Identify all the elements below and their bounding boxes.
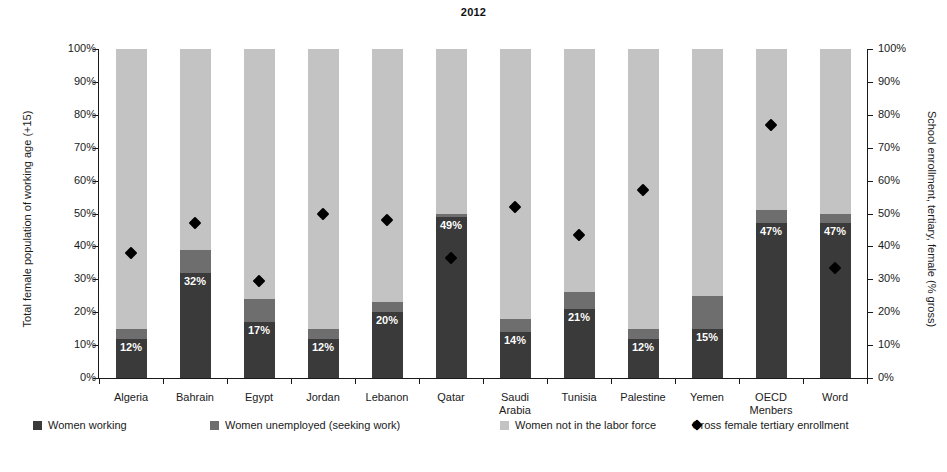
x-axis-label-line: Lebanon [355, 391, 419, 404]
bar-value-label: 12% [308, 342, 339, 353]
y-tick-label-right: 40% [878, 240, 938, 251]
bar-stack[interactable]: 49% [436, 49, 467, 378]
y-tick-label-right: 0% [878, 372, 938, 383]
bar-segment-unemployed[interactable] [436, 214, 467, 217]
bar-stack[interactable]: 14% [500, 49, 531, 378]
x-axis-label-line: Bahrain [163, 391, 227, 404]
y-tick-label-right: 20% [878, 306, 938, 317]
plot-area: 0%10%20%30%40%50%60%70%80%90%100% 0%10%2… [99, 49, 867, 378]
bar-segment-unemployed[interactable] [116, 329, 147, 339]
x-axis-label: Word [803, 391, 867, 404]
y-tick-right [868, 214, 873, 215]
x-tick [675, 379, 676, 384]
bar-value-label: 12% [116, 342, 147, 353]
x-tick [867, 379, 868, 384]
y-tick-right [868, 279, 873, 280]
y-tick-label-right: 50% [878, 208, 938, 219]
bar-stack[interactable]: 32% [180, 49, 211, 378]
bar-segment-working[interactable] [180, 273, 211, 378]
x-axis-label-line: Menbers [739, 404, 803, 417]
bar-segment-working[interactable] [436, 217, 467, 378]
y-axis-title-right: School enrollment, tertiary, female (% g… [926, 54, 938, 384]
x-tick [739, 379, 740, 384]
bar-segment-not-in-labor-force[interactable] [820, 49, 851, 214]
legend-swatch-icon [500, 421, 509, 430]
bar-value-label: 17% [244, 325, 275, 336]
legend-item[interactable]: Women not in the labor force [500, 419, 656, 431]
bar-stack[interactable]: 47% [756, 49, 787, 378]
y-tick-label-right: 60% [878, 175, 938, 186]
bar-stack[interactable]: 17% [244, 49, 275, 378]
x-axis-label-line: Algeria [99, 391, 163, 404]
y-tick-right [868, 148, 873, 149]
x-axis-label: Qatar [419, 391, 483, 404]
bar-segment-unemployed[interactable] [692, 296, 723, 329]
bar-segment-not-in-labor-force[interactable] [372, 49, 403, 302]
bar-segment-working[interactable] [820, 223, 851, 378]
y-tick-right [868, 49, 873, 50]
y-tick-label-left: 20% [36, 306, 96, 317]
bar-stack[interactable]: 47% [820, 49, 851, 378]
bar-value-label: 15% [692, 332, 723, 343]
bar-segment-not-in-labor-force[interactable] [500, 49, 531, 319]
y-axis-title-left: Total female population of working age (… [21, 54, 33, 384]
legend-label: Women working [48, 419, 127, 431]
y-tick-label-right: 90% [878, 76, 938, 87]
bar-segment-working[interactable] [756, 223, 787, 378]
y-tick-label-right: 80% [878, 109, 938, 120]
legend-item[interactable]: Women unemployed (seeking work) [210, 419, 400, 431]
x-axis-label-line: Jordan [291, 391, 355, 404]
bar-stack[interactable]: 12% [628, 49, 659, 378]
y-tick-label-left: 60% [36, 175, 96, 186]
y-tick-label-right: 10% [878, 339, 938, 350]
x-axis-label: Tunisia [547, 391, 611, 404]
legend-swatch-icon [33, 421, 42, 430]
y-tick-label-left: 70% [36, 142, 96, 153]
y-tick-right [868, 115, 873, 116]
bar-segment-not-in-labor-force[interactable] [244, 49, 275, 299]
x-tick [803, 379, 804, 384]
x-axis-label-line: OECD [739, 391, 803, 404]
bar-segment-unemployed[interactable] [308, 329, 339, 339]
y-tick-right [868, 181, 873, 182]
y-tick-label-left: 50% [36, 208, 96, 219]
y-tick-label-left: 80% [36, 109, 96, 120]
legend-label: Women unemployed (seeking work) [225, 419, 400, 431]
bar-segment-not-in-labor-force[interactable] [116, 49, 147, 329]
y-tick-label-left: 100% [36, 43, 96, 54]
bar-segment-unemployed[interactable] [244, 299, 275, 322]
bar-segment-not-in-labor-force[interactable] [308, 49, 339, 329]
x-tick [355, 379, 356, 384]
bar-segment-unemployed[interactable] [564, 292, 595, 308]
legend-item[interactable]: Women working [33, 419, 127, 431]
bar-stack[interactable]: 15% [692, 49, 723, 378]
x-tick [419, 379, 420, 384]
legend-item[interactable]: Gross female tertiary enrollment [692, 419, 849, 431]
x-axis-label-line: Egypt [227, 391, 291, 404]
bar-segment-unemployed[interactable] [500, 319, 531, 332]
x-axis-label: Yemen [675, 391, 739, 404]
y-tick-right [868, 345, 873, 346]
x-axis-label: Algeria [99, 391, 163, 404]
x-axis-label: Lebanon [355, 391, 419, 404]
bar-segment-unemployed[interactable] [628, 329, 659, 339]
y-tick-label-right: 70% [878, 142, 938, 153]
chart-title: 2012 [0, 6, 947, 18]
bar-stack[interactable]: 12% [116, 49, 147, 378]
bar-segment-unemployed[interactable] [820, 214, 851, 224]
x-tick [611, 379, 612, 384]
bar-segment-unemployed[interactable] [372, 302, 403, 312]
x-tick [163, 379, 164, 384]
y-tick-label-left: 90% [36, 76, 96, 87]
bar-stack[interactable]: 21% [564, 49, 595, 378]
legend-swatch-icon [210, 421, 219, 430]
chart-figure: 2012 Total female population of working … [0, 0, 947, 472]
bar-segment-not-in-labor-force[interactable] [436, 49, 467, 214]
bar-segment-unemployed[interactable] [180, 250, 211, 273]
x-axis-label-line: Palestine [611, 391, 675, 404]
bar-segment-unemployed[interactable] [756, 210, 787, 223]
bar-segment-not-in-labor-force[interactable] [692, 49, 723, 296]
x-tick [99, 379, 100, 384]
x-axis-label: SaudiArabia [483, 391, 547, 417]
bar-segment-not-in-labor-force[interactable] [564, 49, 595, 292]
